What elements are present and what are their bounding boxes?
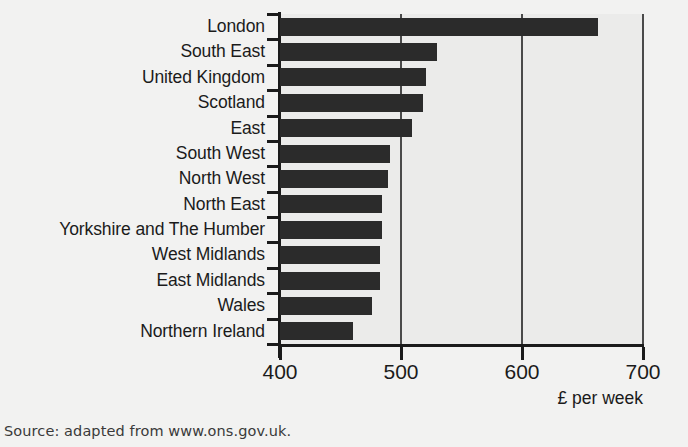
- bar: [280, 68, 426, 86]
- gridline: [521, 14, 523, 344]
- category-label: Wales: [0, 293, 265, 318]
- bar-chart-figure: LondonSouth EastUnited KingdomScotlandEa…: [0, 0, 688, 447]
- bar: [280, 272, 380, 290]
- category-label: East Midlands: [0, 268, 265, 293]
- bar: [280, 119, 412, 137]
- category-label: West Midlands: [0, 242, 265, 267]
- bar: [280, 145, 390, 163]
- category-label: Scotland: [0, 90, 265, 115]
- category-label: South West: [0, 141, 265, 166]
- category-label: East: [0, 116, 265, 141]
- bar: [280, 18, 598, 36]
- bar: [280, 195, 382, 213]
- bar: [280, 43, 437, 61]
- bar: [280, 221, 382, 239]
- value-axis-tick: [521, 347, 524, 360]
- bar: [280, 297, 372, 315]
- bar: [280, 246, 380, 264]
- plot-area: [280, 14, 643, 344]
- gridline: [400, 14, 402, 344]
- value-axis-tick-label: 400: [245, 360, 315, 384]
- bar: [280, 322, 353, 340]
- category-label: Northern Ireland: [0, 319, 265, 344]
- value-axis-tick-label: 700: [608, 360, 678, 384]
- value-axis-tick-label: 500: [366, 360, 436, 384]
- category-label: United Kingdom: [0, 65, 265, 90]
- category-label: South East: [0, 39, 265, 64]
- value-axis-tick-label: 600: [487, 360, 557, 384]
- value-axis-tick: [279, 347, 282, 360]
- bar: [280, 94, 423, 112]
- category-label: North West: [0, 166, 265, 191]
- bar: [280, 170, 388, 188]
- category-axis-labels: LondonSouth EastUnited KingdomScotlandEa…: [0, 14, 265, 344]
- value-axis-tick: [642, 347, 645, 360]
- category-label: Yorkshire and The Humber: [0, 217, 265, 242]
- source-note: Source: adapted from www.ons.gov.uk.: [4, 423, 291, 439]
- gridline: [642, 14, 644, 344]
- x-axis-line: [278, 344, 644, 347]
- category-label: North East: [0, 192, 265, 217]
- value-axis-title: £ per week: [430, 388, 643, 409]
- category-label: London: [0, 14, 265, 39]
- value-axis-tick: [400, 347, 403, 360]
